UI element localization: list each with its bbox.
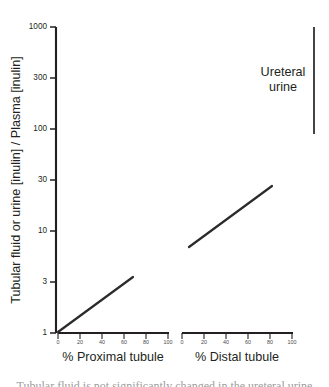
x-tick-label-distal-40: 40 xyxy=(223,339,229,345)
x-tick-label-distal-20: 20 xyxy=(201,339,207,345)
x-tick-label-proximal-60: 60 xyxy=(121,339,127,345)
y-tick-label-1: 1 xyxy=(42,328,47,337)
x-axis-title-distal: % Distal tubule xyxy=(195,350,279,364)
x-tick-label-proximal-0: 0 xyxy=(57,339,60,345)
x-tick-label-proximal-80: 80 xyxy=(143,339,149,345)
x-tick-label-proximal-40: 40 xyxy=(99,339,105,345)
y-tick-label-30: 30 xyxy=(38,175,48,184)
x-tick-label-distal-0: 0 xyxy=(181,339,184,345)
x-tick-label-proximal-100: 100 xyxy=(164,339,173,345)
x-axis-title-proximal: % Proximal tubule xyxy=(62,350,164,364)
x-axis-distal: 0 20 40 60 80 100 xyxy=(181,333,297,345)
x-axis-proximal: 0 20 40 60 80 100 xyxy=(57,333,173,345)
ureteral-urine-annotation: Ureteral urine xyxy=(261,27,314,134)
y-tick-label-3: 3 xyxy=(42,277,47,286)
y-axis: 1000 300 100 30 10 3 1 xyxy=(29,22,56,337)
ureteral-urine-label-line2: urine xyxy=(269,80,297,94)
chart-canvas: 1000 300 100 30 10 3 1 Tubular fluid or … xyxy=(0,0,329,387)
x-tick-label-distal-100: 100 xyxy=(288,339,297,345)
y-axis-title: Tubular fluid or urine [inulin] / Plasma… xyxy=(9,56,23,303)
ureteral-urine-label-line1: Ureteral xyxy=(261,65,306,79)
y-tick-label-100: 100 xyxy=(33,124,47,133)
proximal-tubule-data-line xyxy=(58,277,133,332)
x-tick-label-distal-80: 80 xyxy=(267,339,273,345)
y-tick-label-1000: 1000 xyxy=(29,22,48,31)
x-tick-label-distal-60: 60 xyxy=(245,339,251,345)
distal-tubule-data-line xyxy=(189,186,272,247)
figure-caption-partial: Tubular fluid is not significantly chang… xyxy=(0,373,329,387)
y-tick-label-10: 10 xyxy=(38,226,48,235)
inulin-tf-p-figure: 1000 300 100 30 10 3 1 Tubular fluid or … xyxy=(0,0,329,387)
x-tick-label-proximal-20: 20 xyxy=(77,339,83,345)
y-tick-label-300: 300 xyxy=(33,73,47,82)
